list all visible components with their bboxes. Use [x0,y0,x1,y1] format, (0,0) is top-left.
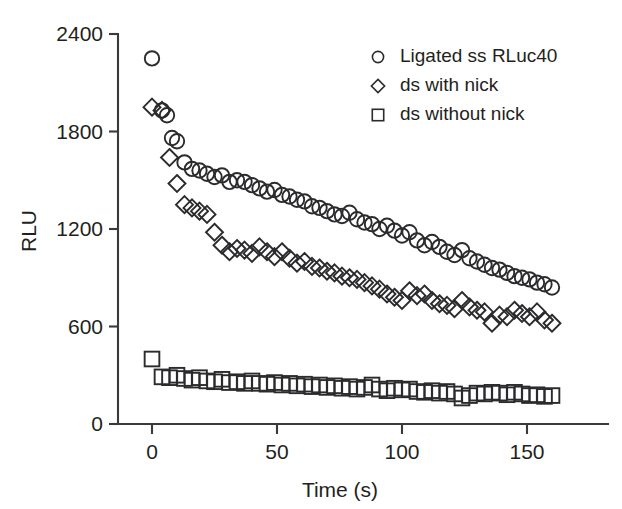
chart-legend: Ligated ss RLuc40ds with nickds without … [371,45,557,124]
legend-label: Ligated ss RLuc40 [400,45,557,66]
x-axis-title: Time (s) [302,478,378,501]
x-tick-label: 100 [384,440,419,463]
y-axis-ticks: 0600120018002400 [56,22,118,435]
data-point [165,131,179,145]
x-tick-label: 150 [509,440,544,463]
data-point [169,175,186,192]
y-tick-label: 0 [91,412,103,435]
data-point [145,352,160,367]
y-axis-title: RLU [17,210,40,252]
legend-label: ds with nick [400,74,499,95]
y-tick-label: 1800 [56,120,103,143]
y-tick-label: 600 [68,315,103,338]
x-tick-label: 0 [146,440,158,463]
series-square [145,352,560,406]
data-point [161,149,178,166]
chart-figure: 0600120018002400 050100150 Ligated ss RL… [0,0,622,509]
data-point [544,315,561,332]
data-point [145,51,159,65]
data-point [514,305,531,322]
x-axis-ticks: 050100150 [146,424,544,463]
scatter-plot: 0600120018002400 050100150 Ligated ss RL… [0,0,622,509]
data-point [170,134,184,148]
legend-label: ds without nick [400,103,525,124]
legend-marker-diamond [371,79,384,92]
legend-marker-square [372,109,383,120]
y-tick-label: 1200 [56,217,103,240]
y-tick-label: 2400 [56,22,103,45]
legend-marker-circle [372,51,383,62]
x-tick-label: 50 [265,440,288,463]
